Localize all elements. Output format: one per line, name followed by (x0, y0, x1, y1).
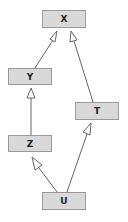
node-label: Y (27, 72, 34, 82)
node-t[interactable]: T (75, 102, 119, 120)
arrowhead-icon (32, 157, 42, 170)
edge-u-z (39, 168, 57, 192)
arrowhead-icon (27, 88, 35, 98)
node-label: X (61, 14, 68, 24)
node-z[interactable]: Z (8, 135, 52, 152)
node-u[interactable]: U (42, 192, 86, 210)
node-x[interactable]: X (42, 10, 86, 28)
arrowhead-icon (50, 31, 57, 42)
edge-t-x (74, 41, 93, 102)
node-y[interactable]: Y (8, 68, 52, 85)
arrowhead-icon (83, 123, 91, 135)
node-label: Z (27, 139, 34, 149)
node-label: T (94, 106, 100, 116)
arrowhead-icon (70, 31, 77, 42)
edge-y-x (35, 40, 53, 68)
edge-u-t (67, 134, 87, 192)
node-label: U (60, 196, 67, 206)
